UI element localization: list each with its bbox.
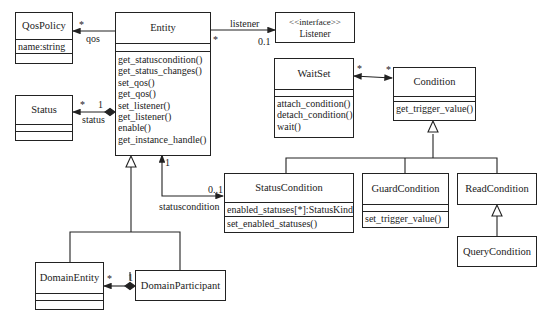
class-name: StatusCondition [225, 174, 353, 202]
statuscondition-role: statuscondition [159, 201, 220, 212]
class-guardcondition: GuardCondition set_trigger_value() [362, 173, 449, 228]
class-name: Listener [276, 28, 354, 40]
generalization-triangle [126, 156, 136, 167]
qos-role: qos [86, 33, 100, 44]
class-statuscondition: StatusCondition enabled_statuses[*]:Stat… [224, 173, 354, 233]
class-name: DomainParticipant [136, 280, 225, 292]
class-readcondition: ReadCondition [457, 173, 537, 205]
generalization-triangle-3 [492, 205, 502, 216]
class-querycondition: QueryCondition [457, 236, 537, 267]
class-name: ReadCondition [458, 183, 536, 195]
listener-mult-target: 0.1 [258, 36, 271, 47]
composition-diamond [105, 109, 115, 116]
class-listener: <<interface>> Listener [275, 12, 355, 43]
condition-mult: * [386, 64, 391, 75]
domain-mult-right: 1 [128, 272, 133, 283]
operations: get_statuscondition() get_status_changes… [116, 51, 210, 146]
listener-mult-source: * [213, 34, 218, 45]
class-domainentity: DomainEntity [35, 262, 104, 310]
operations: attach_condition() detach_condition() wa… [275, 96, 353, 133]
class-name: QosPolicy [16, 13, 72, 39]
qos-mult: * [79, 19, 84, 30]
waitset-mult: * [357, 63, 362, 74]
class-name: GuardCondition [363, 174, 448, 204]
class-condition: Condition get_trigger_value() [393, 67, 476, 121]
composition-diamond-2 [125, 283, 135, 290]
status-mult-target: * [80, 99, 85, 110]
class-name: Entity [116, 13, 210, 43]
class-qospolicy: QosPolicy name:string [15, 12, 73, 64]
statuscondition-mult-source: 1 [165, 157, 170, 168]
generalization-triangle-2 [428, 121, 438, 132]
waitset-condition-association [354, 76, 392, 78]
status-role: status [82, 114, 105, 125]
stereotype: <<interface>> [276, 16, 354, 28]
statuscondition-mult-target: 0..1 [208, 184, 223, 195]
class-waitset: WaitSet attach_condition() detach_condit… [274, 58, 354, 138]
operation: get_trigger_value() [394, 101, 475, 115]
class-name: Condition [394, 68, 475, 96]
listener-role: listener [230, 18, 259, 29]
operation: set_trigger_value() [363, 211, 448, 225]
class-name: QueryCondition [458, 246, 536, 258]
class-name: DomainEntity [36, 263, 103, 293]
class-entity: Entity get_statuscondition() get_status_… [115, 12, 211, 156]
class-name: Status [16, 96, 72, 124]
class-status: Status [15, 95, 73, 141]
class-name: WaitSet [275, 59, 353, 89]
class-domainparticipant: DomainParticipant [135, 270, 226, 301]
operation: set_enabled_statuses() [225, 216, 353, 230]
attribute: enabled_statuses[*]:StatusKind [225, 202, 353, 216]
status-mult-source: 1 [98, 99, 103, 110]
domain-mult-left: * [107, 273, 112, 284]
attribute: name:string [16, 39, 72, 53]
